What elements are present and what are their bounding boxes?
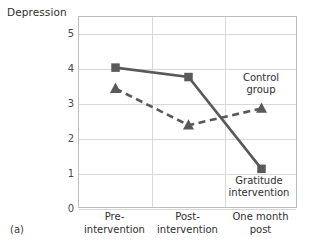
data-point-marker — [110, 83, 121, 93]
data-point-marker — [257, 165, 266, 174]
gridline-y-0 — [79, 209, 296, 210]
y-axis-tick-labels: 012345 — [8, 16, 74, 208]
x-tick-label-line: One month — [218, 211, 304, 224]
data-point-marker — [256, 102, 267, 112]
y-tick-label-2: 2 — [12, 133, 74, 144]
y-tick-label-4: 4 — [12, 63, 74, 74]
x-axis-tick-labels: Pre-interventionPost-interventionOne mon… — [78, 211, 297, 248]
data-point-marker — [111, 63, 120, 71]
panel-label: (a) — [10, 224, 24, 235]
y-tick-label-1: 1 — [12, 168, 74, 179]
y-tick-label-3: 3 — [12, 98, 74, 109]
y-tick-label-5: 5 — [12, 28, 74, 39]
y-tick-label-0: 0 — [12, 203, 74, 214]
series-label-gratitude-intervention: Gratitude intervention — [221, 175, 297, 199]
data-point-marker — [184, 73, 193, 82]
series-label-control-group: Control group — [227, 72, 295, 96]
x-tick-label-2: One monthpost — [218, 211, 304, 236]
x-tick-label-line: post — [218, 224, 304, 237]
plot-area: Control group Gratitude intervention — [78, 16, 297, 208]
depression-line-chart-figure: Depression (a) 012345 Control group Grat… — [0, 0, 311, 248]
